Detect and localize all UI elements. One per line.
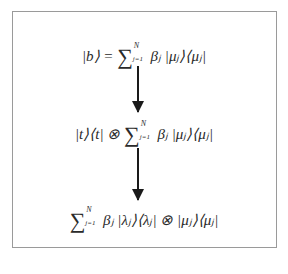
equation-step-3: ∑Nj=1 βⱼ |λⱼ⟩⟨λⱼ| ⊗ |μⱼ⟩⟨μⱼ| <box>0 208 288 234</box>
equation-lhs: |t⟩⟨t| ⊗ <box>75 126 120 142</box>
down-arrow-icon <box>137 148 139 200</box>
equation-rhs: βⱼ |μⱼ⟩⟨μⱼ| <box>151 48 207 64</box>
summation-icon: ∑ <box>124 122 140 147</box>
equation-rhs: βⱼ |μⱼ⟩⟨μⱼ| <box>158 126 214 142</box>
summation-limits: Nj=1 <box>85 213 99 227</box>
equation-rhs: βⱼ |λⱼ⟩⟨λⱼ| ⊗ |μⱼ⟩⟨μⱼ| <box>103 212 218 228</box>
equation-step-1: |b⟩ = ∑Nj=1 βⱼ |μⱼ⟩⟨μⱼ| <box>0 44 288 70</box>
equation-lhs: |b⟩ = <box>82 48 114 64</box>
summation-icon: ∑ <box>117 44 133 69</box>
summation-icon: ∑ <box>70 208 86 233</box>
summation-limits: Nj=1 <box>133 49 147 63</box>
down-arrow-icon <box>137 66 139 112</box>
equation-step-2: |t⟩⟨t| ⊗ ∑Nj=1 βⱼ |μⱼ⟩⟨μⱼ| <box>0 122 288 148</box>
summation-limits: Nj=1 <box>140 127 154 141</box>
